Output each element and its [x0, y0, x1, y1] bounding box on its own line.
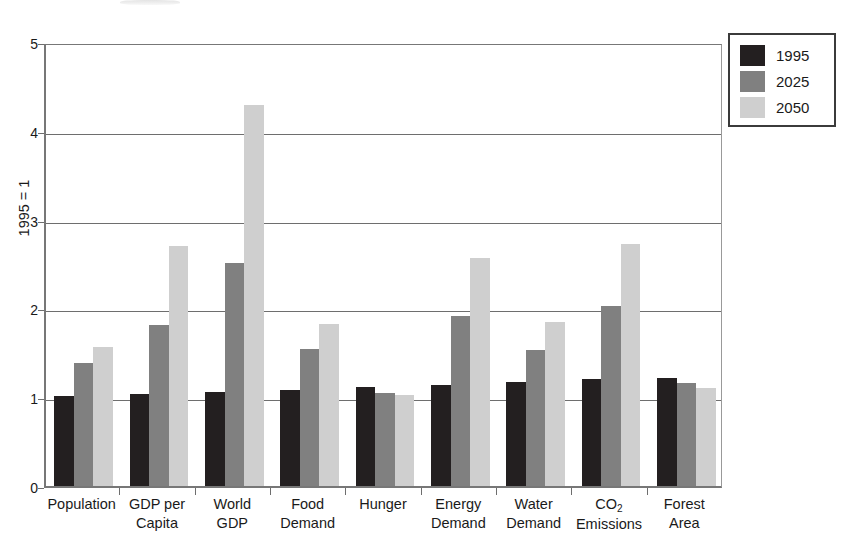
bar-group	[197, 45, 272, 486]
bar-group	[423, 45, 498, 486]
legend-item-2050: 2050	[740, 94, 834, 120]
bar-group	[498, 45, 573, 486]
bar	[130, 394, 150, 486]
legend-item-2025: 2025	[740, 68, 834, 94]
x-axis-label: ForestArea	[647, 495, 722, 533]
x-axis-label: GDP perCapita	[119, 495, 194, 533]
x-tick-mark	[496, 488, 497, 495]
bar-group	[649, 45, 724, 486]
bar	[225, 263, 245, 486]
x-axis-label-line2: Emissions	[571, 515, 646, 534]
bar-series-container	[46, 45, 721, 486]
x-axis-label: WaterDemand	[496, 495, 571, 533]
legend-label: 2050	[776, 99, 809, 116]
x-axis-label-line1: Water	[515, 496, 553, 512]
bar	[696, 388, 716, 486]
bar	[601, 306, 621, 486]
x-tick-mark	[421, 488, 422, 495]
bar	[93, 347, 113, 486]
bar	[621, 244, 641, 486]
x-axis-label-line2: Demand	[496, 514, 571, 533]
bar	[395, 395, 415, 486]
bar	[169, 246, 189, 486]
x-axis-label-line1: Food	[291, 496, 324, 512]
bar-group	[46, 45, 121, 486]
x-axis-label: WorldGDP	[195, 495, 270, 533]
bar-group	[347, 45, 422, 486]
bar	[356, 387, 376, 486]
x-axis-label-line1: Population	[47, 496, 116, 512]
x-tick-mark	[345, 488, 346, 495]
bar	[506, 382, 526, 486]
plot-area	[44, 44, 722, 488]
bar	[205, 392, 225, 486]
bar	[526, 350, 546, 486]
bar	[280, 390, 300, 486]
bar-group	[272, 45, 347, 486]
bar	[545, 322, 565, 486]
x-tick-mark	[270, 488, 271, 495]
legend-label: 2025	[776, 73, 809, 90]
y-tick-label-0: 0	[16, 481, 38, 495]
legend-swatch	[740, 45, 765, 66]
y-tick-label-3: 3	[16, 215, 38, 229]
bar	[470, 258, 490, 486]
bar	[300, 349, 320, 486]
legend-label: 1995	[776, 47, 809, 64]
bar	[431, 385, 451, 486]
bar	[74, 363, 94, 486]
x-axis-label: CO2Emissions	[571, 495, 646, 534]
bar	[149, 325, 169, 486]
bar-group	[573, 45, 648, 486]
x-axis-labels: PopulationGDP perCapitaWorldGDPFoodDeman…	[44, 495, 722, 537]
y-tick-label-5: 5	[16, 37, 38, 51]
y-axis-ticks: 012345	[0, 44, 38, 488]
x-axis-label-line2: Area	[647, 514, 722, 533]
legend-swatch	[740, 71, 765, 92]
bar	[54, 396, 74, 486]
x-axis-label-line2: GDP	[195, 514, 270, 533]
x-tick-mark	[571, 488, 572, 495]
scan-artifact	[120, 0, 180, 5]
x-tick-mark	[195, 488, 196, 495]
bar	[319, 324, 339, 486]
y-tick-label-4: 4	[16, 126, 38, 140]
bar	[375, 393, 395, 486]
x-tick-mark	[647, 488, 648, 495]
bar	[657, 378, 677, 486]
x-axis-label-line2: Capita	[119, 514, 194, 533]
x-axis-label-line1: GDP per	[129, 496, 185, 512]
y-tick-label-1: 1	[16, 392, 38, 406]
x-axis-label: Population	[44, 495, 119, 514]
legend-item-1995: 1995	[740, 42, 834, 68]
bar-chart-figure: 1995 = 1 012345 PopulationGDP perCapitaW…	[0, 0, 857, 537]
bar	[677, 383, 697, 486]
legend-swatch	[740, 97, 765, 118]
bar	[451, 316, 471, 486]
x-axis-label-line1: CO2	[595, 496, 622, 512]
x-axis-label-line2: Demand	[421, 514, 496, 533]
chart-legend: 199520252050	[728, 33, 836, 127]
x-axis-label: Hunger	[345, 495, 420, 514]
x-axis-label-line2: Demand	[270, 514, 345, 533]
x-axis-label-line1: Forest	[664, 496, 705, 512]
x-tick-mark	[119, 488, 120, 495]
y-tick-label-2: 2	[16, 303, 38, 317]
x-axis-label-line1: World	[214, 496, 252, 512]
x-axis-label-line1: Hunger	[359, 496, 407, 512]
x-axis-label: EnergyDemand	[421, 495, 496, 533]
bar-group	[121, 45, 196, 486]
x-axis-label: FoodDemand	[270, 495, 345, 533]
bar	[582, 379, 602, 486]
x-axis-label-line1: Energy	[435, 496, 481, 512]
bar	[244, 105, 264, 486]
